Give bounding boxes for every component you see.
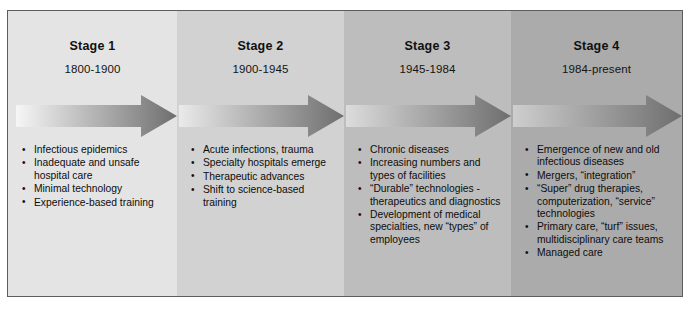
stage-column-2: Stage 2 1900-1945 Acute infections, trau… bbox=[177, 11, 344, 296]
list-item: Development of medical specialties, new … bbox=[358, 209, 505, 246]
stage-dates: 1900-1945 bbox=[177, 63, 344, 75]
list-item: “Durable” technologies - therapeutics an… bbox=[358, 183, 505, 208]
stage-dates: 1984-present bbox=[511, 63, 682, 75]
list-item: Managed care bbox=[525, 247, 676, 259]
stage-dates: 1800-1900 bbox=[8, 63, 177, 75]
list-item: Emergence of new and old infectious dise… bbox=[525, 144, 676, 169]
list-item: Specialty hospitals emerge bbox=[191, 157, 338, 169]
stage-bullet-list: Chronic diseases Increasing numbers and … bbox=[358, 144, 505, 247]
list-item: Experience-based training bbox=[22, 197, 171, 209]
stage-title: Stage 4 bbox=[511, 39, 682, 53]
list-item: Infectious epidemics bbox=[22, 144, 171, 156]
list-item: Minimal technology bbox=[22, 183, 171, 195]
stage-bullet-list: Emergence of new and old infectious dise… bbox=[525, 144, 676, 261]
stage-title: Stage 2 bbox=[177, 39, 344, 53]
list-item: Mergers, “integration” bbox=[525, 170, 676, 182]
list-item: “Super” drug therapies, computerization,… bbox=[525, 183, 676, 220]
list-item: Increasing numbers and types of faciliti… bbox=[358, 157, 505, 182]
list-item: Chronic diseases bbox=[358, 144, 505, 156]
stage-column-3: Stage 3 1945-1984 Chronic diseases Incre… bbox=[344, 11, 511, 296]
list-item: Primary care, “turf” issues, multidiscip… bbox=[525, 221, 676, 246]
stage-column-1: Stage 1 1800-1900 Infectious epidemics I… bbox=[8, 11, 177, 296]
stage-bullet-list: Acute infections, trauma Specialty hospi… bbox=[191, 144, 338, 210]
stage-columns: Stage 1 1800-1900 Infectious epidemics I… bbox=[8, 11, 682, 296]
list-item: Inadequate and unsafe hospital care bbox=[22, 157, 171, 182]
list-item: Acute infections, trauma bbox=[191, 144, 338, 156]
stage-bullet-list: Infectious epidemics Inadequate and unsa… bbox=[22, 144, 171, 210]
list-item: Therapeutic advances bbox=[191, 171, 338, 183]
stage-title: Stage 3 bbox=[344, 39, 511, 53]
list-item: Shift to science-based training bbox=[191, 184, 338, 209]
stage-title: Stage 1 bbox=[8, 39, 177, 53]
evolution-of-health-care-diagram: Stage 1 1800-1900 Infectious epidemics I… bbox=[7, 10, 683, 297]
stage-dates: 1945-1984 bbox=[344, 63, 511, 75]
stage-column-4: Stage 4 1984-present Emergence of new an… bbox=[511, 11, 682, 296]
